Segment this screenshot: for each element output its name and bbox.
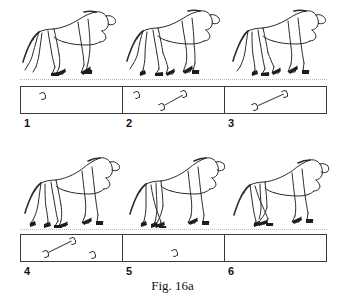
horse-figure-5 — [122, 150, 226, 228]
ground-line-top — [20, 79, 327, 80]
frame-number-1: 1 — [24, 117, 30, 129]
hoofprint — [38, 91, 47, 101]
hoofprint — [170, 248, 179, 258]
diagonal-link-line — [164, 95, 183, 106]
horse-figure-2 — [122, 0, 226, 78]
ground-line-bottom — [20, 229, 327, 230]
hoofprint — [179, 89, 188, 99]
horse-illustration-strip-top — [18, 0, 330, 78]
gait-sequence-row-bottom: 4 5 6 Fig. 16a — [0, 148, 345, 300]
frame-number-3: 3 — [228, 117, 234, 129]
diagonal-link-line — [48, 241, 72, 253]
hoofprint — [132, 90, 141, 100]
frame-number-row-top: 1 2 3 — [0, 117, 345, 135]
horse-figure-4 — [18, 150, 122, 228]
track-cell-2 — [123, 87, 224, 113]
horse-figure-3 — [226, 0, 330, 78]
track-cell-4 — [21, 235, 122, 261]
hoofprint — [88, 250, 97, 260]
hoofprint-track-bottom — [20, 234, 327, 262]
track-cell-6 — [225, 235, 328, 261]
frame-number-5: 5 — [126, 265, 132, 277]
gait-sequence-row-top: 1 2 3 — [0, 0, 345, 140]
diagonal-link-line — [258, 94, 284, 106]
track-cell-5 — [123, 235, 224, 261]
figure-caption: Fig. 16a — [0, 278, 345, 294]
hoofprint — [250, 102, 259, 112]
track-cell-1 — [21, 87, 122, 113]
horse-illustration-strip-bottom — [18, 150, 330, 228]
frame-number-4: 4 — [24, 265, 30, 277]
horse-figure-6 — [226, 150, 330, 228]
frame-number-6: 6 — [228, 265, 234, 277]
horse-figure-1 — [18, 0, 122, 78]
hoofprint-track-top — [20, 86, 327, 114]
track-cell-3 — [225, 87, 328, 113]
frame-number-2: 2 — [126, 117, 132, 129]
figure-16a: 1 2 3 — [0, 0, 345, 300]
